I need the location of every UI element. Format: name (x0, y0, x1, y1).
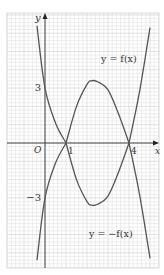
grid (7, 13, 159, 268)
graph-plot: yxO143−3y = f(x)y = −f(x) (0, 0, 164, 275)
x-tick-label: 1 (68, 146, 74, 156)
x-tick-label: 4 (131, 146, 137, 156)
y-axis-label: y (34, 12, 41, 23)
curve-neg-f-label: y = −f(x) (88, 228, 133, 239)
y-tick-label: 3 (35, 82, 41, 93)
curve-f-label: y = f(x) (100, 53, 137, 64)
x-axis-label: x (155, 146, 160, 156)
y-tick-label: −3 (26, 192, 41, 203)
origin-label: O (34, 145, 42, 155)
